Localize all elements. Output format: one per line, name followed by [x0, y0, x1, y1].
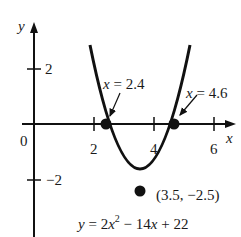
x-axis-arrow-icon: [225, 120, 236, 128]
tick-label-x-2: 2: [90, 141, 98, 157]
x-axis-label: x: [225, 130, 233, 146]
tick-label-y-2: 2: [45, 61, 53, 77]
root-left-label: x = 2.4: [102, 76, 145, 92]
vertex-label: (3.5, −2.5): [156, 187, 219, 204]
vertex-point: [135, 186, 146, 197]
tick-label-y-neg2: −2: [46, 172, 62, 188]
origin-label: 0: [20, 133, 28, 149]
root-right-label: x = 4.6: [185, 85, 228, 101]
root-left-pointer-arrow: [110, 93, 120, 116]
y-axis-label: y: [16, 18, 25, 34]
y-axis-arrow-icon: [30, 22, 38, 33]
root-point-left: [101, 119, 112, 130]
root-point-right: [169, 119, 180, 130]
equation-label: y = 2x2 − 14x + 22: [76, 213, 188, 232]
parabola-curve: [90, 45, 190, 169]
parabola-chart: y x 0 2 4 6 2 −2 x = 2.4 x = 4.6 (3.5, −…: [0, 0, 241, 237]
tick-label-x-6: 6: [210, 141, 218, 157]
